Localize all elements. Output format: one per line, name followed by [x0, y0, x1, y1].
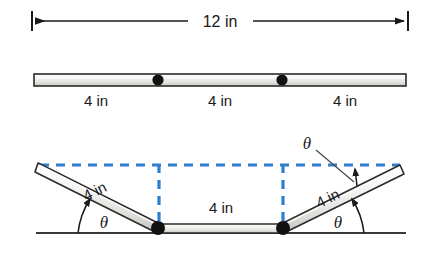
theta-label-top: θ [303, 134, 311, 153]
straight-ruler-bar [34, 74, 406, 86]
folded-ruler-group: 4 in 4 in 4 in θ θ θ [35, 134, 406, 235]
middle-segment-length-label: 4 in [209, 199, 233, 216]
angle-arc-left [78, 199, 90, 233]
theta-label-left: θ [100, 213, 108, 232]
middle-segment [158, 224, 283, 233]
figure-canvas: 12 in 4 in 4 in 4 in [0, 0, 432, 255]
overall-dimension-group: 12 in [32, 11, 408, 31]
ruler-joint-dot-2 [276, 74, 287, 85]
theta-label-right: θ [334, 213, 342, 232]
straight-segment-label-1: 4 in [84, 92, 108, 109]
middle-segment-body [158, 224, 283, 233]
theta-leader-arrow [355, 169, 357, 186]
straight-segment-label-3: 4 in [333, 92, 357, 109]
folded-joint-dot-right [276, 221, 290, 235]
straight-ruler-group: 4 in 4 in 4 in [34, 74, 406, 109]
angle-arc-right [352, 199, 364, 233]
overall-length-label: 12 in [203, 13, 238, 30]
folded-joint-dot-left [151, 221, 165, 235]
right-arm [283, 165, 404, 232]
geometry-figure: 12 in 4 in 4 in 4 in [0, 0, 432, 255]
ruler-joint-dot-1 [152, 74, 163, 85]
straight-segment-label-2: 4 in [208, 92, 232, 109]
